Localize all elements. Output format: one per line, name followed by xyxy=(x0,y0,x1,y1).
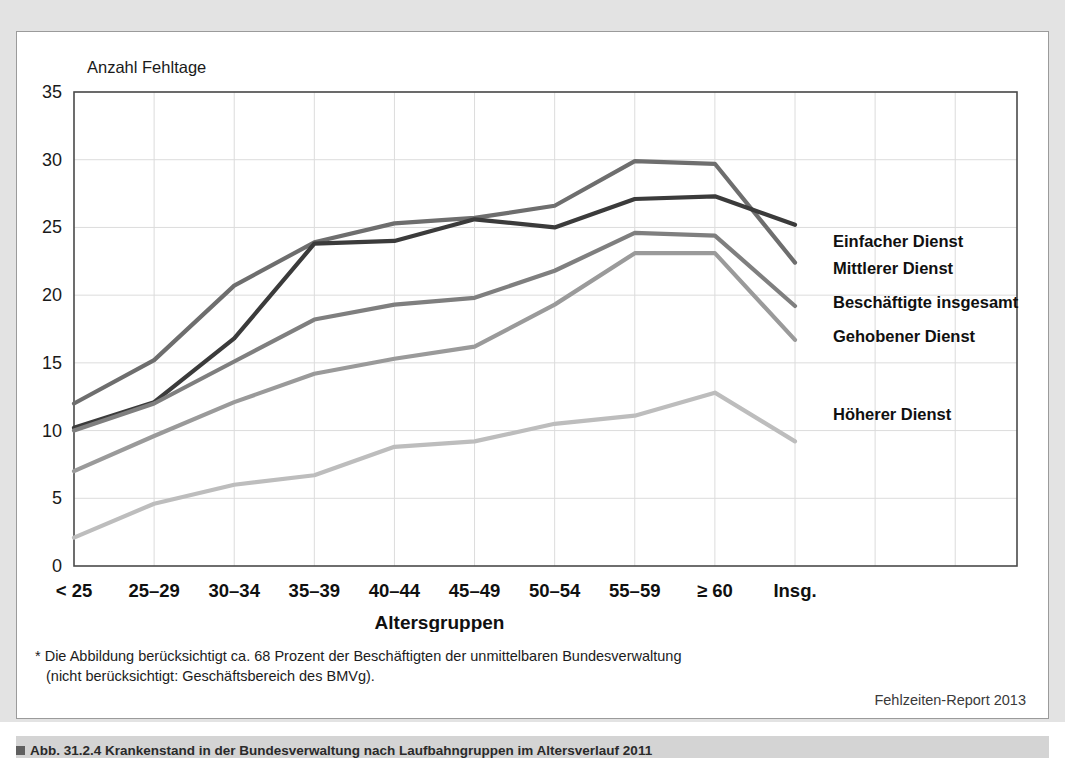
y-tick-label: 10 xyxy=(42,421,62,441)
footnote-line-2: (nicht berücksichtigt: Geschäftsbereich … xyxy=(35,666,1025,686)
y-tick-label: 25 xyxy=(42,217,62,237)
series-label-4: Gehobener Dienst xyxy=(833,327,976,345)
series-label-5: Höherer Dienst xyxy=(833,405,952,423)
series-label-1: Einfacher Dienst xyxy=(833,232,964,250)
figure-footnote: * Die Abbildung berücksichtigt ca. 68 Pr… xyxy=(35,646,1025,686)
figure-caption-band: Abb. 31.2.4 Krankenstand in der Bundesve… xyxy=(16,736,1049,758)
series-label-3: Beschäftigte insgesamt xyxy=(833,293,1019,311)
y-tick-label: 20 xyxy=(42,285,62,305)
line-chart: Anzahl Fehltage05101520253035Einfacher D… xyxy=(17,32,1048,632)
x-tick-label: 45–49 xyxy=(449,580,500,601)
chart-area: Anzahl Fehltage05101520253035Einfacher D… xyxy=(17,32,1048,632)
figure-caption: Abb. 31.2.4 Krankenstand in der Bundesve… xyxy=(30,743,652,758)
series-line-4 xyxy=(74,253,795,471)
x-tick-label: Insg. xyxy=(773,580,816,601)
x-tick-label: 40–44 xyxy=(369,580,421,601)
x-tick-label: 25–29 xyxy=(128,580,179,601)
x-axis-title: Altersgruppen xyxy=(375,612,505,632)
figure-source: Fehlzeiten-Report 2013 xyxy=(874,692,1026,708)
caption-square-icon xyxy=(16,746,25,755)
figure-page: Anzahl Fehltage05101520253035Einfacher D… xyxy=(0,0,1065,758)
x-tick-label: 55–59 xyxy=(609,580,660,601)
series-line-5 xyxy=(74,393,795,538)
y-tick-label: 5 xyxy=(52,488,62,508)
y-axis-title: Anzahl Fehltage xyxy=(87,58,206,76)
x-tick-label: 35–39 xyxy=(289,580,340,601)
figure-card: Anzahl Fehltage05101520253035Einfacher D… xyxy=(16,31,1049,719)
x-tick-label: 50–54 xyxy=(529,580,581,601)
series-label-2: Mittlerer Dienst xyxy=(833,259,954,277)
y-tick-label: 15 xyxy=(42,353,62,373)
y-tick-label: 30 xyxy=(42,150,62,170)
y-tick-label: 35 xyxy=(42,82,62,102)
y-tick-label: 0 xyxy=(52,556,62,576)
x-tick-label: 30–34 xyxy=(208,580,260,601)
footnote-line-1: * Die Abbildung berücksichtigt ca. 68 Pr… xyxy=(35,648,681,664)
x-tick-label: ≥ 60 xyxy=(697,580,733,601)
series-line-2 xyxy=(74,196,795,428)
x-tick-label: < 25 xyxy=(56,580,93,601)
